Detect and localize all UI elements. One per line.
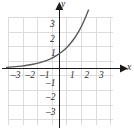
y-axis: [55, 2, 63, 128]
y-tick-label-neg1: –1: [46, 79, 56, 89]
y-tick-label-neg2: –2: [46, 93, 56, 103]
graph-canvas: [0, 0, 134, 138]
y-axis-label: y: [61, 0, 65, 10]
y-tick-label-pos2: 2: [50, 35, 55, 45]
y-tick-label-pos3: 3: [50, 20, 55, 30]
y-tick-label-pos1: 1: [51, 49, 56, 59]
x-tick-label-pos2: 2: [85, 71, 90, 81]
x-tick-label-pos3: 3: [99, 71, 104, 81]
exponential-curve: [7, 10, 89, 67]
x-tick-label-neg2: –2: [26, 71, 36, 81]
y-tick-label-neg3: –3: [46, 108, 56, 118]
x-tick-label-pos1: 1: [70, 71, 75, 81]
x-tick-label-neg3: –3: [11, 71, 21, 81]
x-axis-label: x: [127, 63, 131, 73]
exponential-function-graph: –3 –2 –1 1 2 3 3 2 1 –1 –2 –3 x y: [0, 0, 134, 138]
